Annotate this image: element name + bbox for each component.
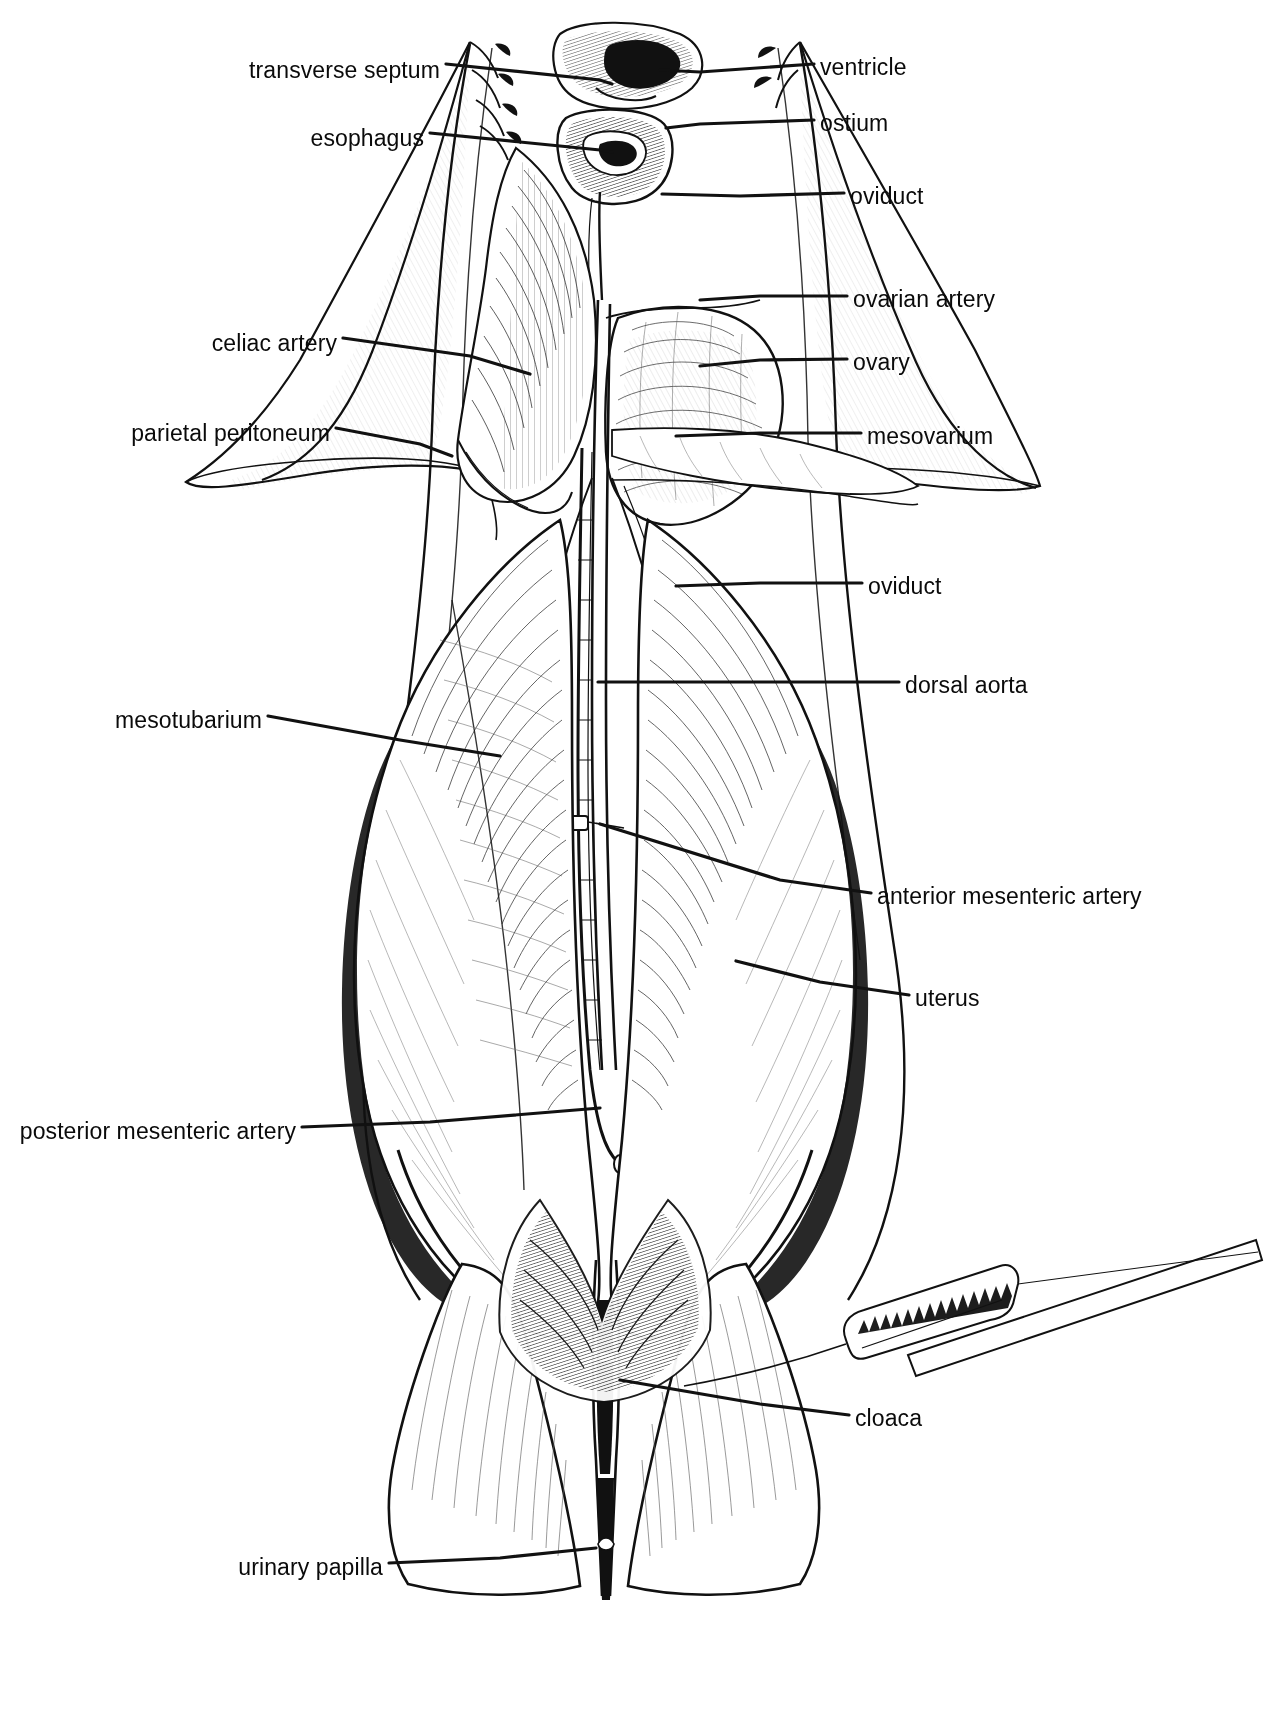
label-oviduct-upper: oviduct <box>850 185 924 208</box>
label-anterior-mesenteric-artery: anterior mesenteric artery <box>877 885 1142 908</box>
label-ostium: ostium <box>820 112 888 135</box>
anatomical-illustration <box>0 0 1267 1718</box>
ovary-mass <box>605 300 782 525</box>
label-esophagus: esophagus <box>311 127 424 150</box>
label-oviduct-lower: oviduct <box>868 575 942 598</box>
label-uterus: uterus <box>915 987 980 1010</box>
uterus-right <box>611 520 868 1338</box>
label-mesovarium: mesovarium <box>867 425 993 448</box>
pelvic-cloacal-region <box>389 1260 819 1600</box>
label-urinary-papilla: urinary papilla <box>238 1556 383 1579</box>
label-ventricle: ventricle <box>820 56 907 79</box>
label-parietal-peritoneum: parietal peritoneum <box>131 422 330 445</box>
label-ovarian-artery: ovarian artery <box>853 288 995 311</box>
label-ovary: ovary <box>853 351 910 374</box>
label-cloaca: cloaca <box>855 1407 922 1430</box>
label-dorsal-aorta: dorsal aorta <box>905 674 1028 697</box>
uterus-left <box>342 520 599 1338</box>
label-mesotubarium: mesotubarium <box>115 709 262 732</box>
label-transverse-septum: transverse septum <box>249 59 440 82</box>
label-celiac-artery: celiac artery <box>212 332 337 355</box>
figure-page: transverse septumesophagusventricleostiu… <box>0 0 1267 1718</box>
leader-ostium <box>666 120 814 128</box>
leader-oviduct-lower <box>676 583 862 586</box>
left-upper-viscera <box>457 148 596 540</box>
label-posterior-mesenteric-artery: posterior mesenteric artery <box>20 1120 296 1143</box>
